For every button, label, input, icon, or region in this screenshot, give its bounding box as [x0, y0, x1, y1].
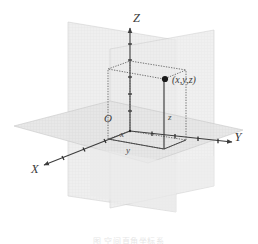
z-axis-label: Z	[133, 11, 141, 25]
point-marker	[162, 76, 168, 82]
x-segment-label: x	[119, 129, 124, 139]
figure-caption: 图 空间直角坐标系	[0, 237, 258, 244]
y-axis-label: Y	[235, 130, 244, 144]
point-coordinate-label: (x,y,z)	[172, 74, 197, 86]
x-axis-label: X	[30, 162, 40, 176]
z-segment-label: z	[167, 112, 172, 122]
coordinate-system-diagram: Z Y X O (x,y,z) x y z	[0, 0, 258, 244]
origin-dot	[129, 130, 131, 132]
figure-container: Z Y X O (x,y,z) x y z 图 空间直角坐标系	[0, 0, 258, 244]
y-segment-label: y	[125, 145, 130, 155]
origin-label: O	[104, 112, 112, 124]
